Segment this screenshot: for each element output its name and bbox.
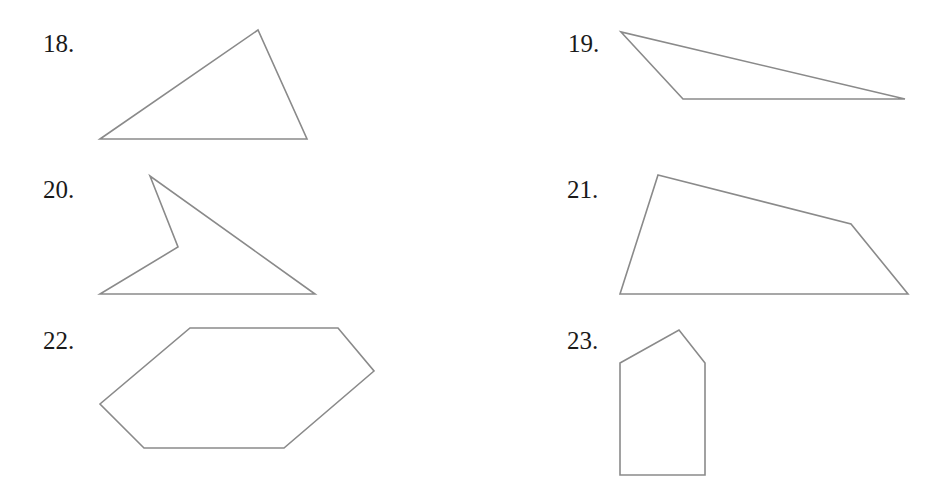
shapes-canvas: [0, 0, 941, 493]
problem-18-triangle: [100, 30, 307, 139]
problem-21-quadrilateral: [620, 175, 908, 294]
problem-23-pentagon: [620, 330, 705, 475]
problem-19-triangle: [621, 32, 905, 99]
problem-20-concave-quadrilateral: [100, 176, 315, 294]
problem-22-hexagon: [100, 328, 374, 448]
